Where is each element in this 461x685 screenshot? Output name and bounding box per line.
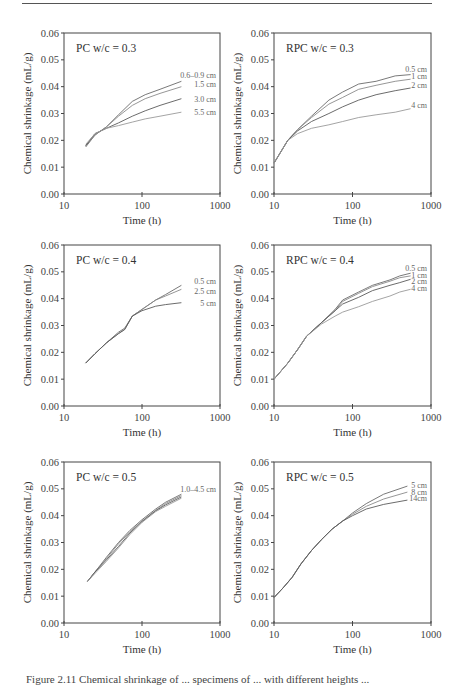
y-tick-label: 0.03 bbox=[251, 108, 269, 119]
y-axis-label: Chemical shrinkage (mL/g) bbox=[231, 52, 244, 174]
y-tick-label: 0.00 bbox=[41, 401, 59, 412]
series-label: 3.0 cm bbox=[194, 95, 217, 104]
y-tick-label: 0.02 bbox=[41, 564, 59, 575]
y-tick-label: 0.05 bbox=[41, 483, 59, 494]
y-tick-label: 0.02 bbox=[251, 347, 269, 358]
y-tick-label: 0.00 bbox=[41, 618, 59, 629]
series-label: 2.5 cm bbox=[194, 287, 217, 296]
y-axis-label: Chemical shrinkage (mL/g) bbox=[231, 264, 244, 386]
series-line bbox=[88, 498, 182, 581]
y-tick-label: 0.02 bbox=[41, 347, 59, 358]
series-label: 0.5 cm bbox=[194, 277, 217, 286]
x-tick-label: 10 bbox=[59, 200, 70, 211]
panel-title: PC w/c = 0.4 bbox=[76, 254, 136, 266]
series-line bbox=[86, 112, 182, 144]
x-tick-label: 1000 bbox=[421, 412, 442, 423]
panel-title: RPC w/c = 0.5 bbox=[286, 471, 354, 483]
y-tick-label: 0.06 bbox=[251, 28, 269, 39]
panel-title: RPC w/c = 0.3 bbox=[286, 42, 354, 54]
x-tick-label: 1000 bbox=[421, 200, 442, 211]
series-label: 14cm bbox=[409, 494, 428, 503]
y-tick-label: 0.01 bbox=[41, 591, 59, 602]
x-axis-label: Time (h) bbox=[333, 643, 372, 656]
x-tick-label: 100 bbox=[134, 412, 150, 423]
series-line bbox=[274, 486, 407, 597]
series-label: 5 cm bbox=[200, 299, 217, 308]
series-line bbox=[274, 273, 411, 379]
y-tick-label: 0.06 bbox=[41, 240, 59, 251]
y-axis-label: Chemical shrinkage (mL/g) bbox=[21, 264, 34, 386]
y-tick-label: 0.03 bbox=[41, 320, 59, 331]
x-tick-label: 100 bbox=[345, 200, 361, 211]
x-tick-label: 100 bbox=[134, 200, 150, 211]
y-axis-label: Chemical shrinkage (mL/g) bbox=[21, 52, 34, 174]
plot-frame bbox=[274, 33, 431, 194]
series-line bbox=[274, 75, 411, 164]
plot-frame bbox=[274, 462, 431, 623]
series-line bbox=[86, 285, 182, 363]
chart-panel: 0.000.010.020.030.040.050.06101001000Tim… bbox=[231, 240, 442, 440]
x-tick-label: 100 bbox=[345, 629, 361, 640]
series-line bbox=[86, 87, 182, 146]
x-tick-label: 10 bbox=[269, 412, 280, 423]
y-tick-label: 0.05 bbox=[251, 54, 269, 65]
y-tick-label: 0.04 bbox=[251, 293, 270, 304]
y-tick-label: 0.00 bbox=[41, 189, 59, 200]
series-line bbox=[88, 494, 182, 581]
panel-title: RPC w/c = 0.4 bbox=[286, 254, 354, 266]
y-tick-label: 0.05 bbox=[41, 266, 59, 277]
y-tick-label: 0.06 bbox=[251, 457, 269, 468]
panel-title: PC w/c = 0.3 bbox=[76, 42, 136, 54]
series-line bbox=[274, 276, 411, 379]
chart-panel: 0.000.010.020.030.040.050.06101001000Tim… bbox=[231, 457, 442, 657]
series-line bbox=[274, 500, 407, 597]
x-tick-label: 1000 bbox=[210, 412, 231, 423]
y-tick-label: 0.04 bbox=[251, 510, 270, 521]
x-tick-label: 100 bbox=[345, 412, 361, 423]
figure-caption: Figure 2.11 Chemical shrinkage of ... sp… bbox=[26, 673, 369, 685]
y-tick-label: 0.03 bbox=[251, 537, 269, 548]
y-tick-label: 0.01 bbox=[251, 162, 269, 173]
chart-panel: 0.000.010.020.030.040.050.06101001000Tim… bbox=[21, 28, 231, 228]
series-label: 1.0–4.5 cm bbox=[180, 485, 217, 494]
series-line bbox=[86, 303, 182, 363]
chart-panel: 0.000.010.020.030.040.050.06101001000Tim… bbox=[231, 28, 442, 228]
x-tick-label: 10 bbox=[59, 412, 70, 423]
series-line bbox=[274, 492, 407, 597]
y-axis-label: Chemical shrinkage (mL/g) bbox=[231, 481, 244, 603]
y-tick-label: 0.02 bbox=[41, 135, 59, 146]
series-label: 5.5 cm bbox=[194, 108, 217, 117]
y-tick-label: 0.00 bbox=[251, 189, 269, 200]
y-tick-label: 0.00 bbox=[251, 401, 269, 412]
y-tick-label: 0.05 bbox=[41, 54, 59, 65]
y-tick-label: 0.03 bbox=[41, 108, 59, 119]
x-tick-label: 10 bbox=[269, 200, 280, 211]
series-line bbox=[88, 496, 182, 582]
y-tick-label: 0.04 bbox=[41, 510, 60, 521]
x-tick-label: 1000 bbox=[210, 629, 231, 640]
series-line bbox=[274, 88, 411, 163]
y-tick-label: 0.03 bbox=[41, 537, 59, 548]
series-line bbox=[88, 497, 182, 582]
chart-panel: 0.000.010.020.030.040.050.06101001000Tim… bbox=[21, 240, 231, 440]
plot-frame bbox=[64, 245, 220, 406]
x-tick-label: 10 bbox=[59, 629, 70, 640]
panel-title: PC w/c = 0.5 bbox=[76, 471, 136, 483]
series-label: 4 cm bbox=[411, 101, 428, 110]
y-tick-label: 0.04 bbox=[41, 293, 60, 304]
series-label: 1.5 cm bbox=[194, 80, 217, 89]
x-tick-label: 1000 bbox=[421, 629, 442, 640]
y-tick-label: 0.03 bbox=[251, 320, 269, 331]
x-axis-label: Time (h) bbox=[333, 426, 372, 439]
x-axis-label: Time (h) bbox=[123, 643, 162, 656]
series-label: 4 cm bbox=[411, 284, 428, 293]
series-line bbox=[86, 289, 182, 363]
y-tick-label: 0.06 bbox=[251, 240, 269, 251]
series-label: 1 cm bbox=[411, 72, 428, 81]
y-tick-label: 0.04 bbox=[251, 81, 270, 92]
y-tick-label: 0.01 bbox=[41, 374, 59, 385]
x-tick-label: 100 bbox=[134, 629, 150, 640]
y-tick-label: 0.00 bbox=[251, 618, 269, 629]
series-line bbox=[274, 109, 411, 163]
